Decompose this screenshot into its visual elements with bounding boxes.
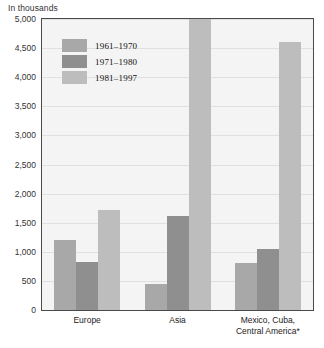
y-tick-label: 3,000 [0, 130, 36, 140]
y-tick-label: 500 [0, 276, 36, 286]
bar-1961-1970-0 [54, 240, 76, 310]
y-tick-label: 4,500 [0, 43, 36, 53]
legend-item: 1971–1980 [62, 54, 137, 69]
bar-1971-1980-2 [257, 249, 279, 310]
y-tick-label: 2,500 [0, 160, 36, 170]
bar-1981-1997-2 [279, 42, 301, 310]
gridline [42, 135, 313, 136]
y-tick-label: 1,500 [0, 218, 36, 228]
y-tick-label: 3,500 [0, 101, 36, 111]
gridline [42, 194, 313, 195]
y-tick-label: 1,000 [0, 247, 36, 257]
legend-item: 1961–1970 [62, 38, 137, 53]
y-tick-label: 2,000 [0, 189, 36, 199]
gridline [42, 106, 313, 107]
bar-1961-1970-1 [145, 284, 167, 310]
bar-1981-1997-0 [98, 210, 120, 310]
bar-1961-1970-2 [235, 263, 257, 310]
bar-1981-1997-1 [189, 19, 211, 310]
legend-swatch-series-0 [62, 39, 87, 52]
gridline [42, 165, 313, 166]
legend-label-series-0: 1961–1970 [95, 41, 137, 51]
legend-label-series-1: 1971–1980 [95, 57, 137, 67]
y-tick-label: 4,000 [0, 72, 36, 82]
bar-1971-1980-1 [167, 216, 189, 310]
y-tick-label: 0 [0, 305, 36, 315]
legend-swatch-series-2 [62, 71, 87, 84]
legend-item: 1981–1997 [62, 70, 137, 85]
bar-chart: In thousands 5,0004,5004,0003,5003,0002,… [0, 0, 324, 348]
bar-1971-1980-0 [76, 262, 98, 310]
gridline [42, 19, 313, 20]
legend-label-series-2: 1981–1997 [95, 73, 137, 83]
category-label: Mexico, Cuba, Central America* [208, 315, 324, 337]
legend-swatch-series-1 [62, 55, 87, 68]
y-axis-units-title: In thousands [8, 3, 58, 13]
y-tick-label: 5,000 [0, 14, 36, 24]
legend: 1961–1970 1971–1980 1981–1997 [62, 38, 137, 86]
